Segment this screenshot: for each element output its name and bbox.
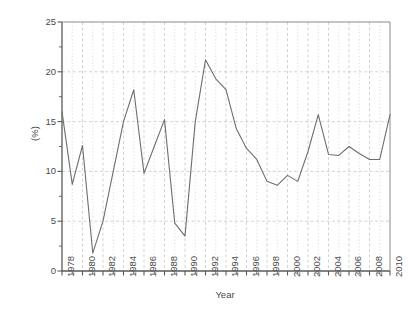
line-chart: (%) 0510152025 1978198019821984198619881…	[0, 0, 414, 311]
plot-area	[0, 0, 414, 311]
y-axis-ticks	[58, 22, 63, 271]
x-axis-ticks	[62, 271, 390, 276]
